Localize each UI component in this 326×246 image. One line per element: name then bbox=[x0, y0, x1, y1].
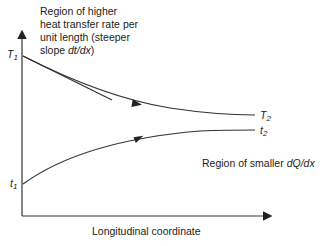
slope-expression: dt/dx bbox=[68, 44, 91, 56]
label-T2: T2 bbox=[260, 109, 271, 122]
annotation-line: unit length (steeper bbox=[40, 31, 138, 44]
text: slope bbox=[40, 44, 68, 56]
text: ) bbox=[91, 44, 95, 56]
label-t2: t2 bbox=[260, 124, 267, 137]
subscript: 1 bbox=[13, 182, 17, 191]
hot-fluid-curve bbox=[23, 56, 255, 115]
text: Region of smaller bbox=[202, 157, 287, 169]
subscript: 2 bbox=[266, 114, 270, 123]
annotation-right: Region of smaller dQ/dx bbox=[202, 157, 315, 170]
label-t1: t1 bbox=[10, 177, 17, 190]
subscript: 1 bbox=[13, 53, 17, 62]
cold-flow-arrow-icon bbox=[133, 135, 144, 143]
annotation-top: Region of higher heat transfer rate per … bbox=[40, 5, 138, 57]
annotation-line: slope dt/dx) bbox=[40, 44, 138, 57]
annotation-line: Region of higher bbox=[40, 5, 138, 18]
gradient-expression: dQ/dx bbox=[287, 157, 315, 169]
annotation-line: heat transfer rate per bbox=[40, 18, 138, 31]
tangent-line bbox=[23, 56, 112, 100]
subscript: 2 bbox=[263, 129, 267, 138]
x-axis-label: Longitudinal coordinate bbox=[92, 225, 201, 238]
label-T1: T1 bbox=[7, 48, 18, 61]
